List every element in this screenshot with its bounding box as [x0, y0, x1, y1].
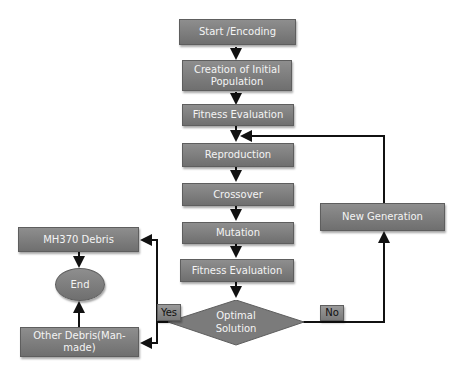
node-label: Fitness Evaluation [192, 265, 283, 277]
node-label: Reproduction [205, 149, 271, 161]
node-label: Creation of Initial Population [183, 64, 291, 88]
decision-label: Optimal Solution [206, 309, 266, 335]
node-fitness-evaluation-1: Fitness Evaluation [182, 104, 294, 126]
node-label: Mutation [216, 227, 260, 239]
node-initial-population: Creation of Initial Population [182, 60, 292, 91]
node-label: New Generation [342, 211, 423, 223]
yes-label: Yes [157, 304, 181, 321]
node-end: End [55, 268, 105, 301]
node-label: Other Debris(Man-made) [21, 330, 138, 354]
node-crossover: Crossover [182, 183, 294, 206]
node-new-generation: New Generation [320, 203, 445, 231]
node-label: End [70, 279, 89, 291]
node-other-debris: Other Debris(Man-made) [20, 327, 139, 357]
node-start-encoding: Start /Encoding [179, 19, 296, 45]
node-label: Start /Encoding [199, 26, 276, 38]
node-mutation: Mutation [182, 222, 294, 244]
yes-text: Yes [161, 307, 177, 319]
node-reproduction: Reproduction [182, 143, 294, 167]
node-label: Crossover [213, 189, 263, 201]
no-label: No [320, 305, 344, 321]
node-mh370-debris: MH370 Debris [18, 227, 139, 252]
node-fitness-evaluation-2: Fitness Evaluation [180, 259, 294, 282]
no-text: No [325, 307, 339, 319]
node-label: Fitness Evaluation [193, 109, 284, 121]
node-label: MH370 Debris [43, 234, 114, 246]
